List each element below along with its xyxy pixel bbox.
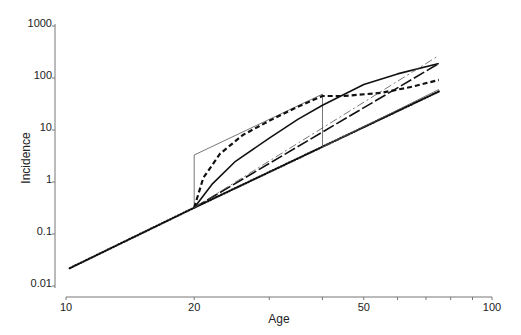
y-tick-label: 0.01 [31, 277, 52, 289]
y-tick-label: 100 [34, 69, 52, 81]
y-tick-label: 1000 [28, 17, 52, 29]
x-tick-label: 50 [358, 301, 370, 313]
x-tick-label: 20 [188, 301, 200, 313]
series-line-2 [194, 80, 439, 208]
x-tick-label: 100 [483, 301, 501, 313]
x-tick-label: 10 [60, 301, 72, 313]
y-tick-label: 10 [40, 121, 52, 133]
series-lines [70, 56, 439, 269]
series-line-5 [194, 56, 439, 208]
y-axis-title: Incidence [19, 132, 33, 184]
x-axis-title: Age [268, 312, 290, 326]
y-tick-label: 0.1 [37, 225, 52, 237]
series-line-0 [70, 92, 439, 269]
y-tick-label: 1 [46, 173, 52, 185]
series-line-4 [194, 64, 439, 208]
incidence-age-chart: 0.010.11101001000102050100 Age Incidence [0, 0, 521, 335]
